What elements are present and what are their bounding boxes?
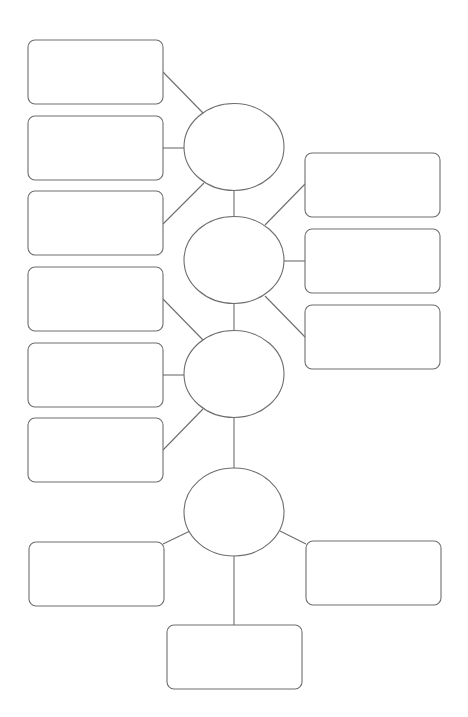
box-left-4[interactable] — [28, 267, 163, 331]
text-box[interactable] — [306, 541, 441, 605]
text-box[interactable] — [28, 116, 163, 180]
text-box[interactable] — [28, 191, 163, 255]
hub-2-node[interactable] — [184, 217, 284, 304]
box-bottom-left[interactable] — [29, 542, 164, 606]
connector-line — [163, 299, 203, 340]
box-left-2[interactable] — [28, 116, 163, 180]
box-bottom-center[interactable] — [167, 625, 302, 689]
text-box[interactable] — [28, 343, 163, 407]
connector-line — [280, 531, 306, 544]
connector-line — [163, 183, 204, 224]
hub-ellipse[interactable] — [184, 104, 284, 191]
text-box[interactable] — [28, 267, 163, 331]
connector-line — [163, 409, 203, 450]
box-right-1[interactable] — [305, 153, 440, 217]
hub-ellipse[interactable] — [184, 217, 284, 304]
box-left-6[interactable] — [28, 418, 163, 482]
text-box[interactable] — [28, 418, 163, 482]
hub-1-node[interactable] — [184, 104, 284, 191]
connector-line — [265, 296, 305, 337]
box-left-5[interactable] — [28, 343, 163, 407]
box-left-3[interactable] — [28, 191, 163, 255]
text-box[interactable] — [167, 625, 302, 689]
hub-ellipse[interactable] — [184, 468, 284, 556]
graphic-organizer-diagram — [0, 0, 468, 717]
text-box[interactable] — [305, 153, 440, 217]
connector-line — [163, 72, 203, 113]
hub-ellipse[interactable] — [184, 331, 284, 418]
connector-line — [265, 184, 305, 225]
connector-line — [163, 531, 190, 544]
box-right-2[interactable] — [305, 229, 440, 293]
box-left-1[interactable] — [28, 40, 163, 104]
text-box[interactable] — [29, 542, 164, 606]
hub-3-node[interactable] — [184, 331, 284, 418]
text-box[interactable] — [305, 229, 440, 293]
hub-4-node[interactable] — [184, 468, 284, 556]
box-bottom-right[interactable] — [306, 541, 441, 605]
box-right-3[interactable] — [305, 305, 440, 369]
text-box[interactable] — [305, 305, 440, 369]
text-box[interactable] — [28, 40, 163, 104]
